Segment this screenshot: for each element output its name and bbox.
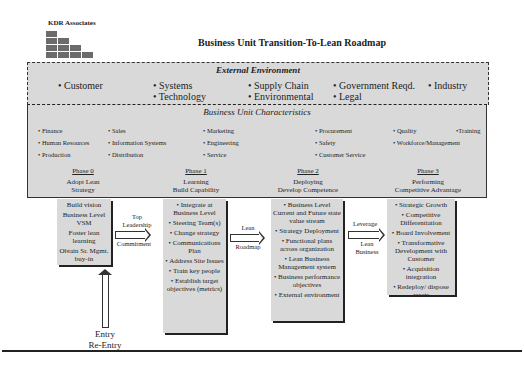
box-item: Business Level VSM [59,211,109,227]
business-unit-panel: Business Unit Characteristics • Finance … [27,104,487,198]
phase-3-box: • Strategic Growth • Competitive Differe… [387,199,455,295]
box-item: Obtain Sr. Mgmt. buy-in [59,247,109,263]
buc-column: • Sales • Information Systems • Distribu… [108,127,166,159]
box-item: • Train key people [165,267,224,275]
phase-1-box: • Integrate at Business Level • Steering… [163,199,226,333]
box-item: Build vision [59,201,109,209]
phase-0-box: Build vision Business Level VSM Foster l… [57,199,111,265]
box-item: • Strategy Deployment [273,227,341,235]
phase-1-header: Phase 1 Learning Build Capability [156,167,236,194]
phase-line: Strategy [48,186,118,194]
phase-line: Performing [383,178,473,186]
phase-name: Phase 3 [383,167,473,175]
box-item: • Business Level Current and Future stat… [273,201,341,225]
right-arrow-icon [348,231,379,239]
box-item: • Transformative Development with Custom… [389,239,453,263]
arrow-2-bottom-label: Roadmap [228,243,268,251]
box-item: • Steering Team(s) [165,219,224,227]
ext-item: • Systems [153,80,192,91]
phase-name: Phase 0 [48,167,118,175]
box-item: • Address Site Issues [165,257,224,265]
entry-line: Entry [80,329,130,340]
phase-name: Phase 2 [268,167,348,175]
buc-item: • Information Systems [108,139,166,147]
buc-item: • Marketing [203,127,239,135]
ext-item: • Environmental [248,91,313,102]
phase-line: Deploying [268,178,348,186]
business-unit-title: Business Unit Characteristics [28,107,486,117]
buc-item: • Production [38,151,89,159]
right-arrow-icon [115,231,145,239]
buc-item: • Procurement [315,127,365,135]
page-title: Business Unit Transition-To-Lean Roadmap [0,37,524,48]
buc-item: • Finance [38,127,89,135]
box-item: • Business performance objectives [273,273,341,289]
phase-0-header: Phase 0 Adopt Lean Strategy [48,167,118,194]
box-item: • Functional plans across organization [273,237,341,253]
buc-item: • Customer Service [315,151,365,159]
external-environment-title: External Environment [28,65,488,75]
ext-item: • Customer [58,80,103,91]
bottom-divider [2,350,522,352]
arrow-1-bottom-label: Commitment [112,240,156,248]
arrow-1-top-label: Top Leadership [118,213,156,229]
buc-item: • Distribution [108,151,166,159]
phase-2-header: Phase 2 Deploying Develop Competence [268,167,348,194]
box-item: • Strategic Growth [389,201,453,209]
phase-line: Learning [156,178,236,186]
arrow-3-bottom-label: Lean Business [350,240,384,256]
buc-column: •Training [456,127,480,135]
buc-column: • Finance • Human Resources • Production [38,127,89,159]
company-name: KDR Associates [48,19,96,27]
phase-line: Build Capability [156,186,236,194]
box-item: • Board Involvement [389,229,453,237]
box-item: • Change strategy [165,229,224,237]
phase-3-header: Phase 3 Performing Competitive Advantage [383,167,473,194]
phase-line: Competitive Advantage [383,186,473,194]
buc-item: • Engineering [203,139,239,147]
ext-item: • Technology [153,91,206,102]
box-item: • Competitive Differentiation [389,211,453,227]
entry-label: Entry Re-Entry [80,329,130,351]
box-item: • Integrate at Business Level [165,201,224,217]
phase-line: Develop Competence [268,186,348,194]
box-item: • External environment [273,291,341,299]
box-item: • Redeploy/ dispose assets [389,283,453,299]
arrow-3-top-label: Leverage [346,220,384,228]
buc-column: • Procurement • Safety • Customer Servic… [315,127,365,159]
ext-item: • Government Reqd. [333,80,415,91]
buc-item: • Quality [393,127,460,135]
box-item: Foster lean learning [59,229,109,245]
box-item: • Lean Business Management system [273,255,341,271]
right-arrow-icon [230,234,259,242]
ext-item: • Supply Chain [248,80,309,91]
box-item: • Establish target objectives (metrics) [165,277,224,293]
phase-2-box: • Business Level Current and Future stat… [271,199,343,321]
buc-item: • Safety [315,139,365,147]
buc-column: • Quality • Workforce/Management [393,127,460,147]
phase-line: Adopt Lean [48,178,118,186]
ext-item: • Industry [428,80,467,91]
box-item: • Communications Plan [165,239,224,255]
buc-column: • Marketing • Engineering • Service [203,127,239,159]
phase-name: Phase 1 [156,167,236,175]
buc-item: • Service [203,151,239,159]
buc-item: • Human Resources [38,139,89,147]
buc-item: •Training [456,127,480,135]
ext-item: • Legal [333,91,362,102]
external-environment-panel: External Environment • Customer • System… [27,62,489,105]
buc-item: • Sales [108,127,166,135]
box-item: • Acquisition integration [389,265,453,281]
up-arrow-icon [102,275,109,328]
buc-item: • Workforce/Management [393,139,460,147]
